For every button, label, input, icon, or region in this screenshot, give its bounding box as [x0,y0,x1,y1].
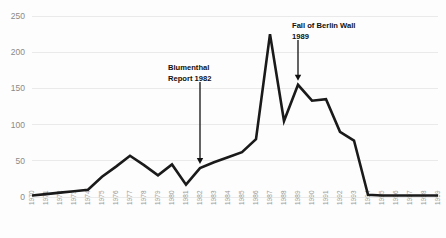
x-axis-tick-label: 1997 [406,190,413,205]
line-chart: 050100150200250 197019711972197319741975… [0,0,446,238]
x-axis-tick-label: 1987 [266,190,273,205]
x-axis-tick-label: 1988 [280,190,287,205]
x-axis-tick-label: 1976 [112,190,119,205]
y-axis-tick-label: 50 [16,156,26,166]
x-axis-tick-label: 1986 [252,190,259,205]
x-axis-tick-label: 1978 [140,190,147,205]
x-axis-tick-label: 1970 [28,190,35,205]
data-line [32,34,438,195]
annotation-label: Blumenthal [168,63,209,72]
x-axis-tick-label: 1982 [196,190,203,205]
chart-container: 050100150200250 197019711972197319741975… [0,0,446,238]
y-axis-tick-label: 100 [11,120,25,130]
x-axis-tick-label: 1996 [392,190,399,205]
x-axis-tick-label: 1983 [210,190,217,205]
x-axis-tick-label: 1977 [126,190,133,205]
y-axis-tick-label: 150 [11,83,25,93]
x-axis-tick-label: 1971 [42,190,49,205]
annotation-label: 1989 [292,32,309,41]
x-axis-tick-label: 1993 [350,190,357,205]
x-axis-tick-label: 1992 [336,190,343,205]
x-axis-tick-label: 1995 [378,190,385,205]
x-axis-tick-label: 1985 [238,190,245,205]
x-axis-tick-labels: 1970197119721973197419751976197719781979… [28,190,441,205]
y-axis-tick-label: 250 [11,11,25,21]
annotation-label: Fall of Berlin Wall [292,21,355,30]
x-axis-tick-label: 1974 [84,190,91,205]
x-axis-tick-label: 1999 [434,190,441,205]
y-axis-tick-labels: 050100150200250 [11,11,25,202]
gridlines-group [32,16,438,197]
x-axis-tick-label: 1980 [168,190,175,205]
x-axis-tick-label: 1975 [98,190,105,205]
y-axis-tick-label: 200 [11,47,25,57]
x-axis-tick-label: 1991 [322,190,329,205]
x-axis-tick-label: 1979 [154,190,161,205]
annotation-arrow-head [295,75,301,81]
x-axis-tick-label: 1990 [308,190,315,205]
data-series-group [32,34,438,195]
x-axis-tick-label: 1981 [182,190,189,205]
x-axis-tick-label: 1989 [294,190,301,205]
x-axis-tick-label: 1998 [420,190,427,205]
x-axis-tick-label: 1984 [224,190,231,205]
annotation-label: Report 1982 [168,74,211,83]
y-axis-tick-label: 0 [20,192,25,202]
